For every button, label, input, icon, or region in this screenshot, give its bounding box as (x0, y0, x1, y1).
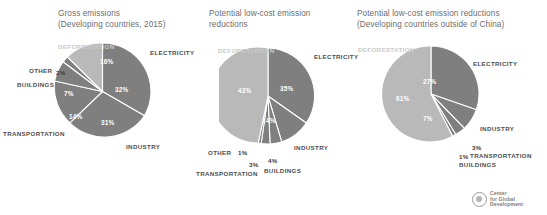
pie-3-label-transportation: TRANSPORTATION (470, 152, 532, 159)
cgd-logo-line3: Development (490, 202, 523, 208)
chart-panel-reductions-outside-china: Potential low-cost emission reductions (… (360, 0, 547, 215)
pie-2-label-deforestation: DEFORESTATION (218, 47, 275, 54)
pie-3-label-electricity: ELECTRICITY (473, 60, 517, 67)
pie-1-label-buildings: BUILDINGS (17, 81, 54, 88)
pie-1-label-other: OTHER (29, 67, 52, 74)
chart-1-title: Gross emissions (Developing countries, 2… (58, 9, 165, 30)
chart-3-title: Potential low-cost emission reductions (… (357, 9, 504, 30)
pie-2-value-buildings: 4% (268, 157, 277, 164)
pie-1-slices (54, 43, 151, 137)
pie-2-slice-deforestation (219, 47, 268, 143)
pie-3-label-buildings: BUILDINGS (459, 161, 496, 168)
pie-3-label-industry: INDUSTRY (480, 125, 514, 132)
cgd-circle-logo-icon (472, 192, 487, 207)
cgd-logo-text: Center for Global Development (490, 191, 523, 208)
chart-panel-potential-reductions: Potential low-cost emission reductions 3… (186, 0, 360, 215)
pie-3-value-buildings: 1% (459, 153, 468, 160)
pie-1-label-transportation: TRANSPORTATION (3, 130, 65, 137)
pie-chart-1 (53, 42, 152, 141)
pie-1-value-other: 2% (56, 69, 65, 76)
pie-3-slices (382, 46, 479, 142)
pie-1-label-industry: INDUSTRY (126, 143, 160, 150)
chart-panel-gross-emissions: Gross emissions (Developing countries, 2… (0, 0, 186, 215)
pie-2-value-other: 1% (238, 149, 247, 156)
pie-3-value-transportation: 3% (472, 144, 481, 151)
chart-3-subtitle: (Developing countries outside of China) (357, 20, 504, 31)
pie-2-label-other: OTHER (208, 149, 231, 156)
pie-2-label-buildings: BUILDINGS (264, 167, 301, 174)
chart-2-title: Potential low-cost emission reductions (209, 9, 310, 30)
pie-3-label-deforestation: DEFORESTATION (358, 46, 415, 53)
chart-1-title-line1: Gross emissions (58, 9, 165, 20)
pie-2-slices (219, 47, 315, 144)
pie-chart-3 (382, 45, 480, 143)
three-pie-chart-figure: Gross emissions (Developing countries, 2… (0, 0, 547, 215)
pie-2-value-transportation: 3% (249, 161, 258, 168)
chart-3-title-line1: Potential low-cost emission reductions (357, 9, 504, 20)
pie-2-label-industry: INDUSTRY (294, 144, 328, 151)
pie-chart-2 (219, 47, 317, 145)
chart-2-title-line1: Potential low-cost emission (209, 9, 310, 20)
pie-2-label-transportation: TRANSPORTATION (196, 170, 258, 177)
chart-2-subtitle: reductions (209, 20, 310, 31)
chart-1-subtitle: (Developing countries, 2015) (58, 20, 165, 31)
pie-2-label-electricity: ELECTRICITY (314, 53, 358, 60)
cgd-logo: Center for Global Development (472, 191, 523, 208)
pie-1-label-deforestation: DEFORESTATION (58, 43, 115, 50)
